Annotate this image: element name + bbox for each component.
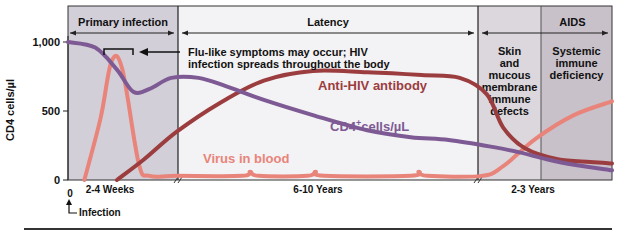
hiv-progression-chart: Primary infection Latency AIDS Skinandmu… xyxy=(0,0,641,232)
phase-background-systemic xyxy=(541,6,612,180)
phase-label-aids: AIDS xyxy=(559,16,585,28)
annotation-line-2: infection spreads throughout the body xyxy=(188,58,391,70)
phase-label-primary-infection: Primary infection xyxy=(78,16,168,28)
series-label-anti-hiv-antibody: Anti-HIV antibody xyxy=(318,78,428,93)
subphase-label-line: membrane xyxy=(482,81,538,93)
cd4-label-main: CD4 xyxy=(330,119,357,134)
series-label-cd4: CD4+cells/µL xyxy=(330,118,409,134)
duration-label-aids: 2-3 Years xyxy=(511,184,555,195)
phase-label-latency: Latency xyxy=(307,16,349,28)
phase-background-primary-infection xyxy=(68,6,178,180)
subphase-label-line: immune xyxy=(555,57,597,69)
y-tick-label: 500 xyxy=(42,105,60,117)
subphase-label-systemic: Systemicimmunedeficiency xyxy=(550,45,605,81)
y-tick-label: 0 xyxy=(54,174,60,186)
duration-label-latency: 6-10 Years xyxy=(293,184,343,195)
subphase-label-line: mucous xyxy=(488,69,530,81)
infection-label: Infection xyxy=(79,207,121,218)
series-label-virus-in-blood: Virus in blood xyxy=(203,151,289,166)
y-ticks: 05001,000 xyxy=(32,36,68,186)
annotation-line-1: Flu-like symptoms may occur; HIV xyxy=(188,46,368,58)
cd4-label-rest: cells/µL xyxy=(361,119,409,134)
duration-label-primary: 2-4 Weeks xyxy=(86,184,135,195)
infection-arrowhead-icon xyxy=(66,199,72,205)
subphase-label-line: Systemic xyxy=(552,45,600,57)
y-axis-label: CD4 cells/µl xyxy=(4,79,16,141)
y-tick-label: 1,000 xyxy=(32,36,60,48)
subphase-label-line: Skin xyxy=(498,45,522,57)
subphase-label-line: immune xyxy=(488,93,530,105)
subphase-label-line: deficiency xyxy=(550,69,605,81)
subphase-label-line: and xyxy=(500,57,520,69)
x-origin-label: 0 xyxy=(67,188,73,199)
